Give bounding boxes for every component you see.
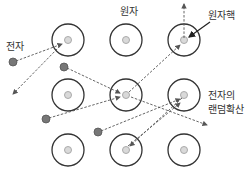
atom	[110, 79, 142, 111]
electron	[9, 58, 17, 66]
atom-grid	[52, 24, 200, 166]
electron	[42, 115, 50, 123]
atom-label: 원자	[120, 6, 138, 18]
atom	[110, 134, 142, 166]
nucleus-label: 원자핵	[208, 10, 235, 22]
electrons	[9, 58, 102, 136]
electron	[60, 63, 68, 71]
diffusion-diagram	[0, 0, 250, 172]
atom	[52, 134, 84, 166]
random-diffusion-label-line1: 전자의	[208, 90, 235, 102]
atom	[110, 24, 142, 56]
path-arrow	[49, 97, 120, 118]
random-diffusion-label-line2: 랜덤확산	[208, 104, 244, 116]
atom	[168, 134, 200, 166]
atom	[52, 79, 84, 111]
electron-label: 전자	[6, 41, 24, 53]
electron	[94, 128, 102, 136]
atom	[52, 24, 84, 56]
